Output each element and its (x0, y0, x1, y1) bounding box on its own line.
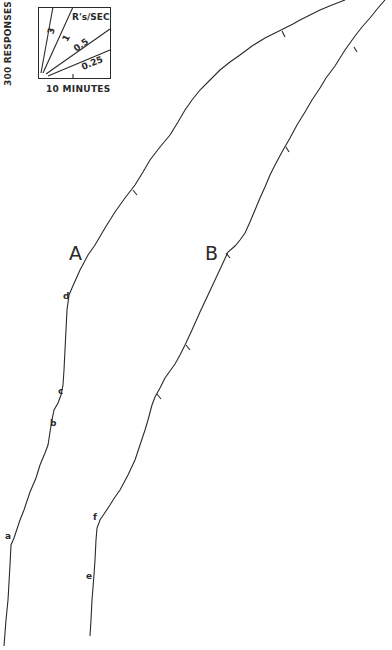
annotation-f: f (93, 512, 97, 522)
annotation-a: a (5, 531, 11, 541)
curves-svg (0, 0, 392, 650)
annotation-b: b (50, 418, 56, 428)
curve-b-label: B (205, 242, 218, 264)
annotation-c: c (58, 386, 63, 396)
annotation-d: d (63, 291, 69, 301)
curve-b-line (90, 0, 385, 636)
curve-a-label: A (69, 242, 82, 264)
annotation-e: e (86, 571, 92, 581)
cumulative-record-figure: 3 1 R's/SEC 0.5 0.25 300 RESPONSES 10 MI… (0, 0, 392, 650)
event-ticks (133, 31, 357, 399)
curve-a-line (4, 0, 345, 646)
